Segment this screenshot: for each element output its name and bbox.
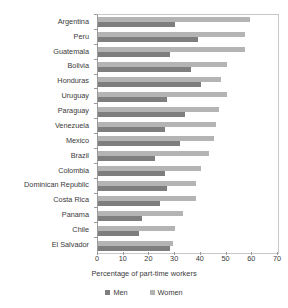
category-label: Honduras	[0, 74, 93, 89]
category-label: Argentina	[0, 14, 93, 29]
bar-men	[98, 156, 155, 161]
bar-men	[98, 67, 191, 72]
plot-area	[97, 14, 279, 254]
bar-men	[98, 171, 165, 176]
bar-group	[98, 134, 278, 149]
bar-men	[98, 112, 185, 117]
bar-group	[98, 119, 278, 134]
category-axis-labels: ArgentinaPeruGuatemalaBoliviaHondurasUru…	[0, 14, 93, 252]
value-tick-label: 20	[144, 255, 152, 262]
bar-men	[98, 246, 170, 251]
category-label: Mexico	[0, 133, 93, 148]
bar-group	[98, 104, 278, 119]
value-tick-label: 50	[222, 255, 230, 262]
bar-group	[98, 45, 278, 60]
legend-label: Men	[113, 289, 127, 296]
value-tick-label: 60	[247, 255, 255, 262]
bar-men	[98, 22, 175, 27]
value-tick-label: 0	[95, 255, 99, 262]
bar-group	[98, 89, 278, 104]
category-label: Panama	[0, 207, 93, 222]
legend-swatch-icon	[150, 290, 155, 295]
legend-swatch-icon	[105, 290, 110, 295]
bar-group	[98, 179, 278, 194]
value-tick-label: 40	[196, 255, 204, 262]
value-tick-label: 10	[119, 255, 127, 262]
bar-group	[98, 194, 278, 209]
value-tick-label: 70	[273, 255, 281, 262]
bar-men	[98, 141, 180, 146]
bar-group	[98, 208, 278, 223]
value-tick-label: 30	[170, 255, 178, 262]
category-label: Paraguay	[0, 103, 93, 118]
category-label: El Salvador	[0, 237, 93, 252]
bar-men	[98, 186, 167, 191]
bar-group	[98, 223, 278, 238]
bar-group	[98, 238, 278, 253]
bars-layer	[98, 15, 278, 253]
bar-group	[98, 30, 278, 45]
bar-men	[98, 37, 198, 42]
x-axis-title: Percentage of part-time workers	[0, 270, 288, 277]
category-label: Dominican Republic	[0, 178, 93, 193]
bar-group	[98, 75, 278, 90]
legend-entry[interactable]: Women	[150, 289, 183, 296]
legend-label: Women	[158, 289, 183, 296]
chart-legend: MenWomen	[0, 289, 288, 296]
bar-men	[98, 201, 160, 206]
bar-group	[98, 149, 278, 164]
category-label: Venezuela	[0, 118, 93, 133]
bar-men	[98, 97, 167, 102]
bar-men	[98, 82, 201, 87]
bar-men	[98, 52, 170, 57]
category-label: Bolivia	[0, 59, 93, 74]
part-time-workers-bar-chart: ArgentinaPeruGuatemalaBoliviaHondurasUru…	[0, 0, 288, 308]
category-label: Brazil	[0, 148, 93, 163]
bar-group	[98, 60, 278, 75]
bar-men	[98, 127, 165, 132]
category-label: Guatemala	[0, 44, 93, 59]
bar-men	[98, 216, 142, 221]
category-label: Peru	[0, 29, 93, 44]
category-label: Uruguay	[0, 88, 93, 103]
category-label: Colombia	[0, 163, 93, 178]
bar-men	[98, 231, 139, 236]
category-label: Costa Rica	[0, 193, 93, 208]
category-label: Chile	[0, 222, 93, 237]
bar-group	[98, 15, 278, 30]
bar-group	[98, 164, 278, 179]
legend-entry[interactable]: Men	[105, 289, 127, 296]
value-axis-tick-labels: 010203040506070	[97, 255, 277, 266]
